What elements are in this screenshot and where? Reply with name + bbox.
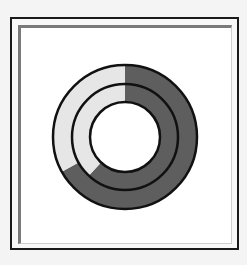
donut-chart [0, 0, 247, 265]
ring-outline [90, 102, 160, 172]
